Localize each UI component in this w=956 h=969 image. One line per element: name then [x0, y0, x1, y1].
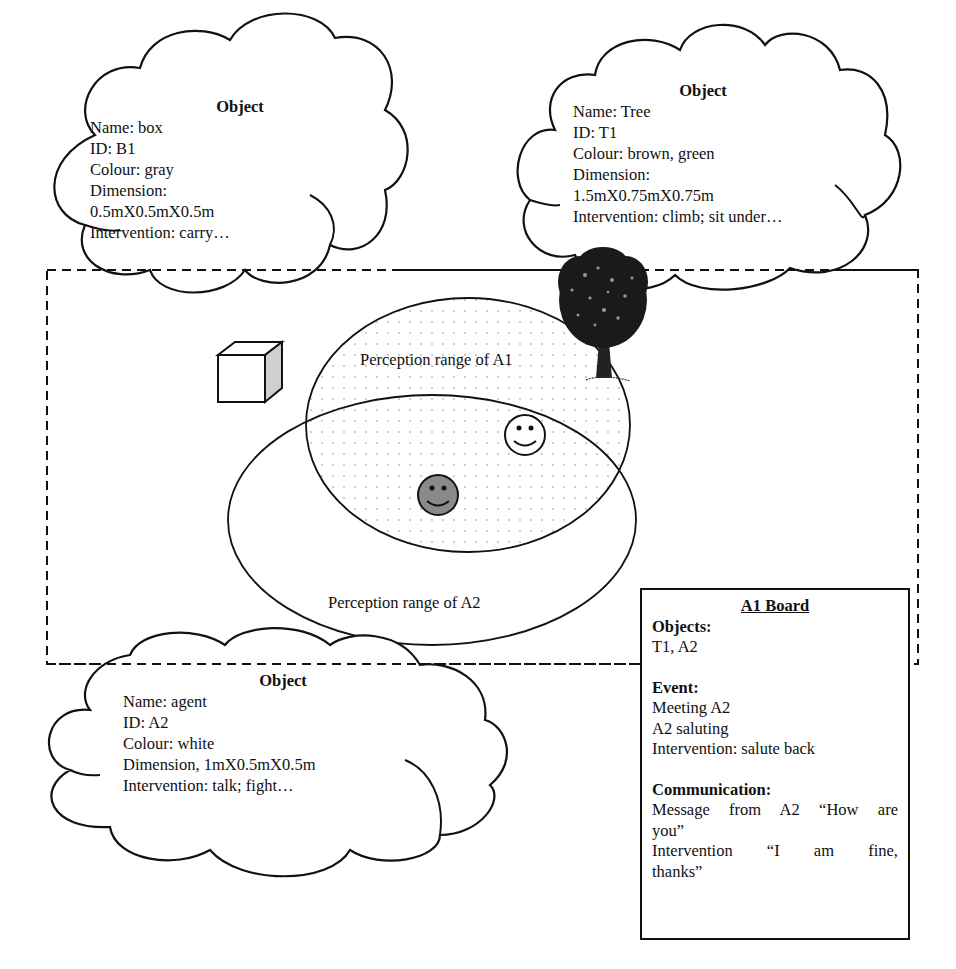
object-dimension-value: 0.5mX0.5mX0.5m: [90, 201, 350, 222]
a1-board: A1 Board Objects: T1, A2 Event: Meeting …: [640, 588, 910, 940]
object-intervention: Intervention: carry…: [90, 222, 350, 243]
board-communication-heading: Communication:: [652, 780, 898, 801]
board-communication-line: Message from A2 “How are: [652, 800, 898, 821]
object-id: ID: B1: [90, 138, 350, 159]
board-event-heading: Event:: [652, 678, 898, 699]
object-dimension-value: 1.5mX0.75mX0.75m: [573, 185, 803, 206]
object-name: Name: Tree: [573, 101, 803, 122]
object-colour: Colour: white: [123, 733, 393, 754]
board-event-line: A2 saluting: [652, 719, 898, 740]
object-title: Object: [573, 80, 803, 101]
object-id: ID: T1: [573, 122, 803, 143]
object-title: Object: [123, 670, 393, 691]
object-card-box: Object Name: box ID: B1 Colour: gray Dim…: [90, 96, 350, 243]
perception-range-a2-label: Perception range of A2: [328, 593, 481, 613]
object-name: Name: box: [90, 117, 350, 138]
board-communication-line: Intervention “I am fine,: [652, 841, 898, 862]
object-colour: Colour: brown, green: [573, 143, 803, 164]
board-event-line: Intervention: salute back: [652, 739, 898, 760]
board-title: A1 Board: [652, 596, 898, 617]
object-dimension: Dimension, 1mX0.5mX0.5m: [123, 754, 393, 775]
object-intervention: Intervention: climb; sit under…: [573, 206, 803, 227]
perception-range-a1-label: Perception range of A1: [360, 350, 513, 370]
object-colour: Colour: gray: [90, 159, 350, 180]
object-card-tree: Object Name: Tree ID: T1 Colour: brown, …: [573, 80, 803, 227]
object-name: Name: agent: [123, 691, 393, 712]
board-objects-heading: Objects:: [652, 617, 898, 638]
agent-a1-smiley-icon: [505, 415, 545, 455]
object-card-agent: Object Name: agent ID: A2 Colour: white …: [123, 670, 393, 796]
agent-a2-smiley-icon: [418, 475, 458, 515]
board-communication-line: you”: [652, 821, 898, 842]
object-title: Object: [90, 96, 350, 117]
board-communication-line: thanks”: [652, 862, 898, 883]
object-intervention: Intervention: talk; fight…: [123, 775, 393, 796]
board-event-line: Meeting A2: [652, 698, 898, 719]
object-dimension-label: Dimension:: [573, 164, 803, 185]
board-objects-value: T1, A2: [652, 637, 898, 658]
object-id: ID: A2: [123, 712, 393, 733]
box-icon: [218, 342, 282, 402]
object-dimension-label: Dimension:: [90, 180, 350, 201]
